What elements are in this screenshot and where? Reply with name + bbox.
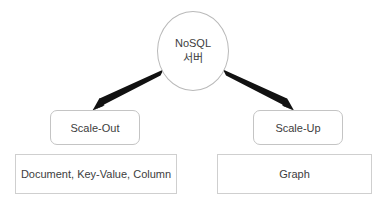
node-nosql-server-label-secondary: 서버 [175, 51, 211, 66]
nosql-architecture-diagram: NoSQL 서버 Scale-Out Scale-Up Document, Ke… [0, 0, 388, 210]
node-scale-up: Scale-Up [253, 110, 343, 145]
node-scale-out-types: Document, Key-Value, Column [15, 154, 177, 194]
node-scale-out-types-label: Document, Key-Value, Column [21, 168, 171, 180]
node-scale-out: Scale-Out [50, 110, 140, 145]
node-scale-up-types-label: Graph [279, 168, 310, 180]
node-scale-out-label: Scale-Out [71, 122, 120, 134]
node-scale-up-label: Scale-Up [275, 122, 320, 134]
node-scale-up-types: Graph [217, 154, 372, 194]
node-nosql-server: NoSQL 서버 [157, 11, 229, 91]
node-nosql-server-label-primary: NoSQL [175, 36, 211, 51]
